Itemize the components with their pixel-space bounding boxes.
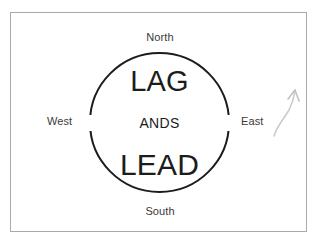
circle-bottom-word-lead: LEAD xyxy=(89,149,230,181)
axis-label-ands-text: ANDS xyxy=(136,115,182,131)
compass-label-west: West xyxy=(47,115,72,128)
axis-label-ands: ANDS xyxy=(89,115,230,131)
horizontal-axis: ANDS xyxy=(89,114,230,132)
curved-up-arrow-icon xyxy=(271,86,305,138)
diagram-canvas: North West East South LAG ANDS LEAD xyxy=(0,0,320,243)
compass-label-north: North xyxy=(0,31,320,44)
compass-label-east: East xyxy=(241,115,263,128)
annotation-doodle xyxy=(271,86,305,138)
compass-label-south: South xyxy=(0,205,320,218)
circle-top-word-lag: LAG xyxy=(89,65,230,97)
